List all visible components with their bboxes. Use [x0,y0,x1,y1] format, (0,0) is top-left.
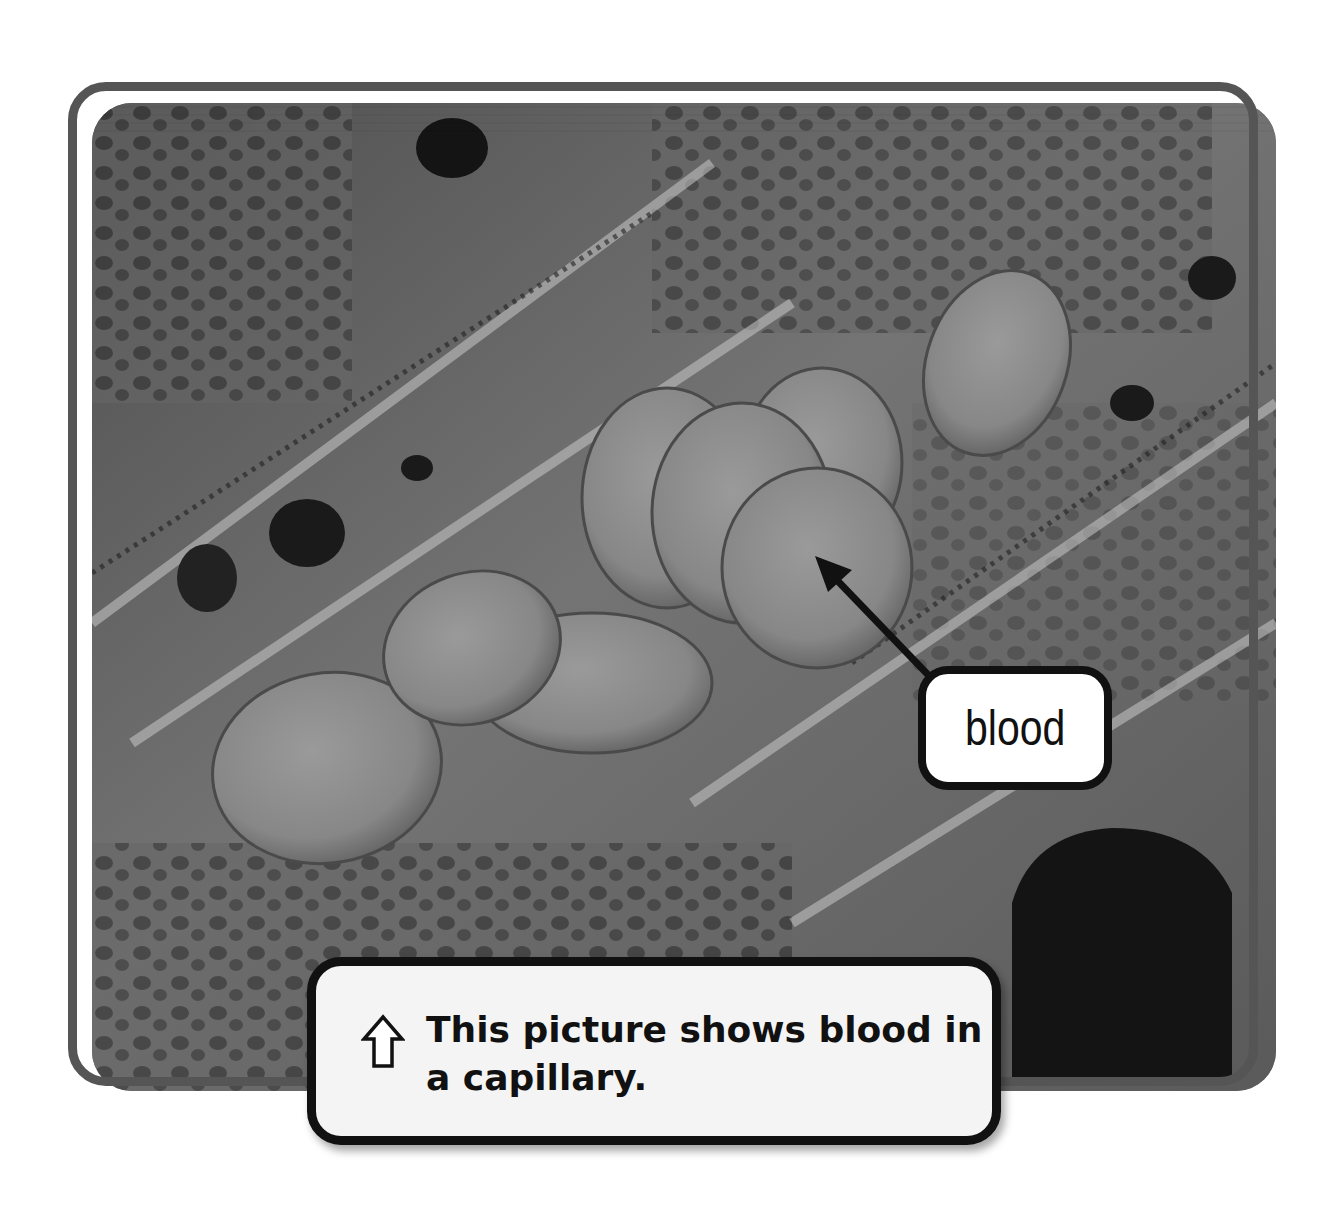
blood-label: blood [918,666,1112,790]
blood-label-text: blood [965,699,1065,757]
micrograph-image [92,103,1276,1091]
capillary-micrograph [92,103,1276,1091]
figure-caption: This picture shows blood in a capillary. [307,957,1001,1145]
up-arrow-outline-icon [361,1014,405,1070]
caption-text: This picture shows blood in a capillary. [426,1006,986,1102]
